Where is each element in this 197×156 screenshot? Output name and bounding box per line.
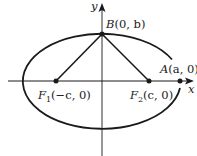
point-f2 — [147, 79, 152, 84]
point-b — [100, 32, 105, 37]
y-axis: y — [90, 0, 106, 156]
label-f2: F2(c, 0) — [129, 88, 173, 104]
point-f1 — [54, 79, 59, 84]
label-a: A(a, 0) — [159, 62, 197, 76]
x-axis-label: x — [188, 82, 195, 96]
segment-f1-b — [56, 34, 102, 81]
label-b: B(0, b) — [105, 17, 145, 31]
label-f1: F1(−c, 0) — [37, 88, 91, 104]
point-a — [178, 79, 183, 84]
ellipse-figure: x y B(0, b) A(a, 0) F1(−c, 0) F2(c, 0) — [0, 0, 197, 156]
y-axis-label: y — [90, 0, 98, 13]
